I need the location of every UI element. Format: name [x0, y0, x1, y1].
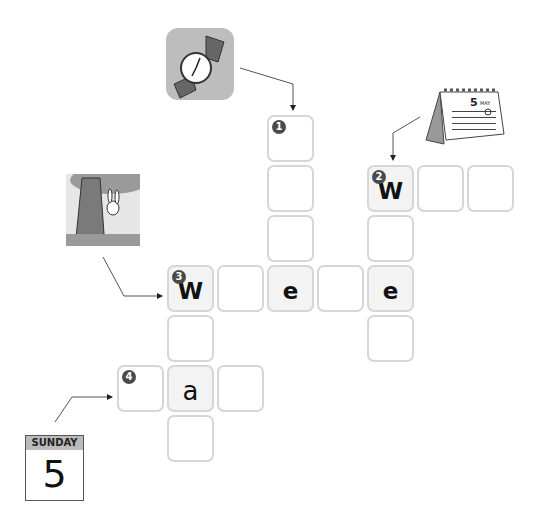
svg-text:MAY: MAY: [480, 100, 491, 106]
wristwatch-picture: [166, 28, 234, 100]
clue-number-badge: 4: [122, 370, 136, 384]
rabbit-tree-picture: [66, 174, 140, 246]
crossword-cell[interactable]: [417, 165, 464, 212]
crossword-cell[interactable]: 2W: [367, 165, 414, 212]
cell-letter: e: [283, 278, 299, 304]
crossword-cell[interactable]: [317, 265, 364, 312]
crossword-cell[interactable]: [217, 265, 264, 312]
crossword-cell[interactable]: 1: [267, 115, 314, 162]
crossword-cell[interactable]: [167, 415, 214, 462]
desk-calendar-icon: 5 MAY: [422, 84, 510, 146]
desk-calendar-picture: 5 MAY: [422, 84, 510, 146]
calendar-date: 5: [26, 450, 83, 498]
crossword-cell[interactable]: [467, 165, 514, 212]
crossword-cell[interactable]: [167, 315, 214, 362]
crossword-cell[interactable]: [267, 165, 314, 212]
clue-number-badge: 1: [272, 120, 286, 134]
clue-number-badge: 2: [372, 170, 386, 184]
crossword-cell[interactable]: e: [367, 265, 414, 312]
svg-text:5: 5: [470, 96, 478, 109]
cell-letter: e: [383, 278, 399, 304]
wristwatch-icon: [166, 28, 234, 100]
sunday-calendar-picture: SUNDAY 5: [25, 435, 84, 501]
tree-rabbit-icon: [66, 174, 140, 246]
crossword-cell[interactable]: [217, 365, 264, 412]
crossword-cell[interactable]: [367, 215, 414, 262]
cell-letter: a: [183, 376, 199, 406]
crossword-cell[interactable]: [367, 315, 414, 362]
crossword-cell[interactable]: a: [167, 365, 214, 412]
calendar-day-label: SUNDAY: [26, 436, 83, 450]
crossword-cell[interactable]: 4: [117, 365, 164, 412]
clue-number-badge: 3: [172, 270, 186, 284]
crossword-cell[interactable]: 3W: [167, 265, 214, 312]
crossword-cell[interactable]: [267, 215, 314, 262]
crossword-cell[interactable]: e: [267, 265, 314, 312]
